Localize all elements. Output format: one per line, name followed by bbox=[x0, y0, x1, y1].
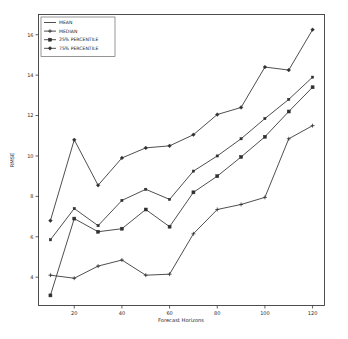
data-point-marker bbox=[144, 208, 147, 211]
data-point-marker bbox=[240, 138, 242, 140]
legend-label: MEAN bbox=[59, 20, 72, 25]
y-tick-label: 14 bbox=[27, 72, 33, 78]
y-tick-label: 4 bbox=[30, 274, 33, 280]
data-point-marker bbox=[168, 198, 170, 200]
data-point-marker bbox=[192, 191, 195, 194]
x-tick-label: 80 bbox=[214, 310, 220, 316]
y-tick-label: 6 bbox=[30, 234, 33, 240]
data-point-marker bbox=[49, 38, 52, 41]
chart-figure: 20406080100120 46810121416 Forecast Hori… bbox=[0, 0, 348, 339]
data-point-marker bbox=[97, 225, 99, 227]
data-point-marker bbox=[73, 217, 76, 220]
data-point-marker bbox=[49, 239, 51, 241]
legend-label: 25% PERCENTILE bbox=[59, 37, 99, 42]
data-point-marker bbox=[120, 227, 123, 230]
data-point-marker bbox=[216, 155, 218, 157]
data-point-marker bbox=[287, 110, 290, 113]
data-point-marker bbox=[288, 98, 290, 100]
chart-legend: MEANMEDIAN25% PERCENTILE75% PERCENTILE bbox=[41, 17, 115, 56]
data-point-marker bbox=[49, 294, 52, 297]
data-point-marker bbox=[311, 76, 313, 78]
data-point-marker bbox=[311, 86, 314, 89]
data-point-marker bbox=[216, 175, 219, 178]
x-tick-label: 40 bbox=[119, 310, 125, 316]
y-axis-title: RMSE bbox=[9, 153, 15, 168]
data-point-marker bbox=[145, 188, 147, 190]
legend-label: MEDIAN bbox=[59, 29, 77, 34]
x-tick-label: 20 bbox=[71, 310, 77, 316]
data-point-marker bbox=[264, 117, 266, 119]
y-tick-label: 8 bbox=[30, 193, 33, 199]
y-tick-label: 10 bbox=[27, 153, 33, 159]
data-point-marker bbox=[240, 155, 243, 158]
legend-label: 75% PERCENTILE bbox=[59, 46, 99, 51]
x-tick-label: 120 bbox=[308, 310, 318, 316]
data-point-marker bbox=[263, 135, 266, 138]
x-tick-label: 100 bbox=[260, 310, 270, 316]
data-point-marker bbox=[97, 230, 100, 233]
rmse-line-chart: 20406080100120 46810121416 Forecast Hori… bbox=[0, 0, 348, 339]
x-axis-title: Forecast Horizons bbox=[158, 317, 204, 323]
y-tick-label: 12 bbox=[27, 112, 33, 118]
y-tick-label: 16 bbox=[27, 32, 33, 38]
data-point-marker bbox=[168, 225, 171, 228]
data-point-marker bbox=[73, 207, 75, 209]
data-point-marker bbox=[192, 170, 194, 172]
x-tick-label: 60 bbox=[166, 310, 172, 316]
data-point-marker bbox=[121, 199, 123, 201]
